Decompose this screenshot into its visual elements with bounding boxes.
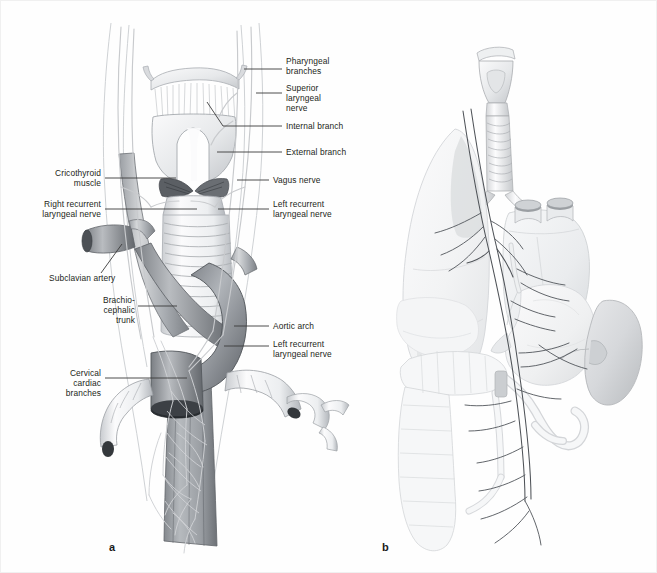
cricothyroid-muscle-shape <box>159 179 229 198</box>
label-vagus-nerve: Vagus nerve <box>273 175 321 185</box>
cut-vessel-ring <box>151 351 203 418</box>
label-left-recurrent-laryngeal-nerve-upper: Left recurrent laryngeal nerve <box>273 199 332 219</box>
panel-a: Pharyngeal branches Superior laryngeal n… <box>1 1 391 573</box>
cut-branch-left-lower <box>100 379 153 457</box>
anatomy-figure: Pharyngeal branches Superior laryngeal n… <box>0 0 657 573</box>
label-cervical-cardiac-branches: Cervical cardiac branches <box>15 368 101 399</box>
label-pharyngeal-branches: Pharyngeal branches <box>286 56 329 76</box>
label-superior-laryngeal-nerve: Superior laryngeal nerve <box>286 83 321 114</box>
colon <box>398 351 507 551</box>
label-brachiocephalic-trunk: Brachio- cephalic trunk <box>49 295 135 326</box>
label-cricothyroid-muscle: Cricothyroid muscle <box>11 168 101 188</box>
hyoid-and-thyrohyoid-membrane <box>143 65 247 121</box>
label-aortic-arch: Aortic arch <box>273 321 314 331</box>
label-left-recurrent-laryngeal-nerve-lower: Left recurrent laryngeal nerve <box>273 339 332 359</box>
panel-letter-b: b <box>382 541 389 553</box>
panel-letter-a: a <box>109 541 115 553</box>
label-internal-branch: Internal branch <box>286 121 343 131</box>
thyroid-cartilage <box>152 114 236 181</box>
label-external-branch: External branch <box>286 147 346 157</box>
label-right-recurrent-laryngeal-nerve: Right recurrent laryngeal nerve <box>7 199 101 219</box>
panel-b: b <box>391 1 657 573</box>
label-subclavian-artery: Subclavian artery <box>49 273 115 283</box>
